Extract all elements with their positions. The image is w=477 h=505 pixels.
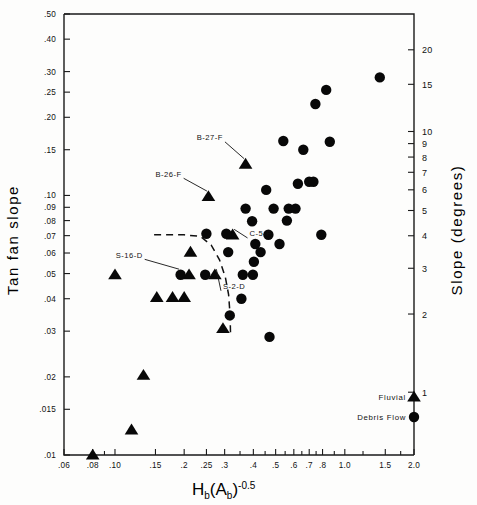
right-tick-label-0: 20 (422, 45, 432, 55)
left-tick-label-13: .03 (44, 327, 56, 336)
right-axis-ticks-group: 201510987654321 (408, 45, 432, 397)
right-tick-label-7: 5 (422, 206, 427, 216)
bottom-tick-label-2: .10 (109, 461, 121, 470)
point-fluvial-11 (202, 190, 216, 201)
right-tick-label-2: 10 (422, 127, 432, 137)
right-tick-label-9: 3 (422, 264, 427, 274)
point-debris-flow-8 (240, 203, 250, 213)
figure-root: .50.40.30.25.20.15.10.09.08.07.06.05.04.… (0, 0, 477, 505)
data-points-group (86, 72, 385, 459)
point-debris-flow-30 (325, 137, 335, 147)
annotation-leader-s-16-d (145, 259, 179, 269)
right-tick-label-1: 15 (422, 80, 432, 90)
point-fluvial-5 (166, 291, 180, 302)
point-debris-flow-14 (261, 185, 271, 195)
point-fluvial-10 (216, 322, 230, 333)
point-debris-flow-17 (268, 203, 278, 213)
point-debris-flow-20 (282, 215, 292, 225)
left-tick-label-5: .15 (44, 146, 56, 155)
annotation-label-b-27-f: B-27-F (197, 133, 223, 142)
y-axis-title: Tan fan slope (4, 185, 21, 295)
bottom-tick-label-1: .08 (87, 461, 99, 470)
legend-circle-marker (409, 412, 419, 422)
bottom-tick-label-8: .5 (272, 461, 279, 470)
left-tick-label-11: .05 (44, 270, 56, 279)
point-debris-flow-26 (308, 177, 318, 187)
bottom-tick-label-3: .15 (149, 461, 161, 470)
bottom-tick-label-0: .06 (58, 461, 70, 470)
point-debris-flow-31 (375, 72, 385, 82)
left-tick-label-6: .10 (44, 191, 56, 200)
point-debris-flow-0 (175, 270, 185, 280)
axis-frame-path (64, 14, 414, 455)
right-tick-label-10: 2 (422, 310, 427, 320)
left-tick-label-2: .30 (44, 68, 56, 77)
left-tick-label-8: .08 (44, 217, 56, 226)
x-title-exponent: -0.5 (238, 480, 256, 491)
bottom-tick-label-11: .8 (319, 461, 326, 470)
point-fluvial-13 (239, 158, 253, 169)
point-debris-flow-3 (221, 229, 231, 239)
point-debris-flow-10 (248, 270, 258, 280)
x-axis-title: Hb(Ab)-0.5 (192, 480, 256, 501)
point-debris-flow-22 (290, 203, 300, 213)
bottom-tick-label-6: .3 (221, 461, 228, 470)
x-title-H: H (192, 480, 204, 499)
point-debris-flow-24 (298, 145, 308, 155)
bottom-tick-label-10: .7 (306, 461, 313, 470)
left-tick-label-10: .06 (44, 249, 56, 258)
right-tick-label-11: 1 (422, 388, 427, 398)
bottom-tick-label-13: 1.5 (379, 461, 391, 470)
left-tick-label-16: .01 (44, 451, 56, 460)
right-tick-label-3: 9 (422, 139, 427, 149)
bottom-tick-label-9: .6 (290, 461, 297, 470)
point-fluvial-1 (125, 424, 139, 435)
bottom-axis-ticks-group: .06.08.10.15.2.25.3.4.5.6.7.81.01.52.0 (58, 449, 420, 470)
point-fluvial-3 (108, 268, 122, 279)
annotation-leader-b-26-f (184, 178, 207, 191)
point-fluvial-4 (150, 291, 164, 302)
bottom-tick-label-12: 1.0 (339, 461, 351, 470)
point-fluvial-0 (86, 449, 100, 460)
annotation-leader-s-2-d (216, 269, 221, 291)
point-debris-flow-13 (255, 247, 265, 257)
point-debris-flow-23 (293, 179, 303, 189)
right-tick-label-4: 8 (422, 153, 427, 163)
point-debris-flow-1 (200, 270, 210, 280)
point-debris-flow-11 (249, 257, 259, 267)
annotation-label-c-5-f: C-5-F (250, 229, 272, 238)
point-debris-flow-9 (247, 216, 257, 226)
point-debris-flow-6 (236, 294, 246, 304)
left-axis-ticks-group: .50.40.30.25.20.15.10.09.08.07.06.05.04.… (39, 10, 70, 460)
left-tick-label-7: .09 (44, 203, 56, 212)
point-debris-flow-28 (316, 230, 326, 240)
right-tick-label-8: 4 (422, 231, 427, 241)
point-debris-flow-5 (225, 310, 235, 320)
point-debris-flow-2 (201, 229, 211, 239)
legend-group[interactable]: FluvialDebris Flow (357, 391, 421, 422)
bottom-tick-label-7: .4 (250, 461, 257, 470)
annotation-leader-b-27-f (225, 142, 244, 159)
point-debris-flow-16 (264, 332, 274, 342)
x-title-open-A: (A (210, 480, 228, 499)
right-axis-title: Slope (degrees) (448, 165, 465, 296)
left-tick-label-12: .04 (44, 295, 56, 304)
left-tick-label-0: .50 (44, 10, 56, 19)
annotation-label-s-2-d: S-2-D (223, 282, 245, 291)
bottom-tick-label-14: 2.0 (408, 461, 420, 470)
point-fluvial-6 (177, 291, 191, 302)
left-tick-label-15: .015 (39, 405, 56, 414)
annotation-label-s-16-d: S-16-D (116, 251, 143, 260)
svg-text:Hb(Ab)-0.5: Hb(Ab)-0.5 (192, 480, 256, 501)
plot-frame (64, 14, 414, 455)
left-tick-label-4: .20 (44, 113, 56, 122)
point-debris-flow-18 (274, 239, 284, 249)
legend-label-debris-flow[interactable]: Debris Flow (357, 413, 406, 422)
left-tick-label-1: .40 (44, 35, 56, 44)
legend-label-fluvial[interactable]: Fluvial (379, 393, 406, 402)
point-fluvial-2 (137, 369, 151, 380)
point-fluvial-8 (184, 246, 198, 257)
point-debris-flow-19 (278, 136, 288, 146)
bottom-tick-label-4: .2 (181, 461, 188, 470)
right-tick-label-6: 6 (422, 185, 427, 195)
